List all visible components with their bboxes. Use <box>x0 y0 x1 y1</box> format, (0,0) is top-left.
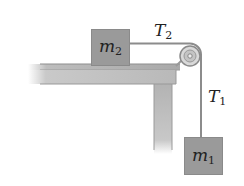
pulley-system-diagram: m2 m1 T2 T1 <box>0 0 244 186</box>
mass-label-m2: m2 <box>99 38 122 57</box>
tension-label-t1: T1 <box>208 88 226 107</box>
table-top <box>28 64 180 84</box>
mass-block-m1: m1 <box>184 137 223 175</box>
tension-label-t2: T2 <box>154 22 172 41</box>
mass-block-m2: m2 <box>91 29 130 66</box>
mass-label-m1: m1 <box>192 147 215 166</box>
table-leg <box>154 84 172 154</box>
pulley-icon <box>180 46 200 66</box>
